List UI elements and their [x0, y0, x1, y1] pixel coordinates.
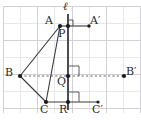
label-point-B-prime: B′ [126, 66, 137, 77]
label-point-A-prime: A′ [90, 15, 100, 26]
point-B [18, 74, 22, 78]
point-Q [66, 74, 70, 78]
label-line-l: ℓ [63, 1, 68, 12]
geometry-figure: ℓ A A′ B B′ C C′ P Q R [0, 0, 141, 120]
label-point-C: C [40, 104, 48, 115]
label-point-P: P [58, 28, 65, 39]
grid-major [3, 6, 140, 113]
right-angle-at-R [68, 92, 79, 102]
right-angle-marks [68, 20, 79, 102]
label-point-B: B [5, 67, 13, 78]
label-point-R: R [59, 104, 67, 115]
diagram-canvas [0, 0, 141, 120]
label-point-A: A [45, 15, 53, 26]
point-P [66, 24, 70, 28]
label-point-Q: Q [57, 76, 66, 87]
label-point-C-prime: C′ [92, 104, 103, 115]
